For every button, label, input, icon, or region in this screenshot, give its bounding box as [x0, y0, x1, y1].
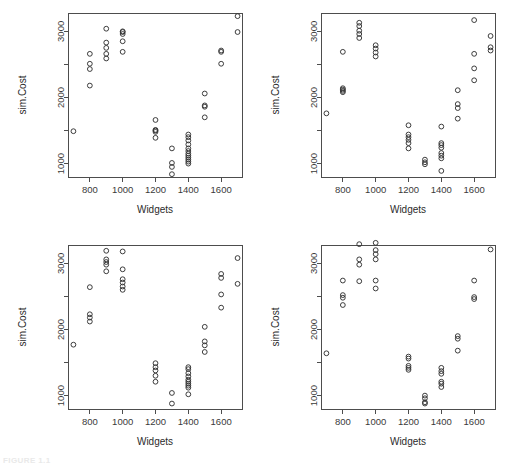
data-points-0: [71, 14, 240, 177]
x-axis-tick-label: 1200: [145, 184, 166, 195]
x-axis-tick-label: 1400: [431, 184, 452, 195]
scatter-panel-top-left: 100020003000 8001000120014001600 Widgets…: [0, 0, 253, 232]
data-point: [87, 285, 92, 290]
x-axis-tick-label: 800: [82, 416, 98, 427]
data-point: [340, 278, 345, 283]
x-axis-tick-label: 1600: [211, 184, 232, 195]
data-point: [472, 278, 477, 283]
x-axis-tick-label: 1400: [178, 184, 199, 195]
x-axis-tick-label: 1400: [178, 416, 199, 427]
data-point: [406, 123, 411, 128]
data-point: [104, 51, 109, 56]
y-axis-tick-label: 2000: [55, 87, 66, 108]
data-point: [357, 20, 362, 25]
y-axis-tick-label: 3000: [55, 21, 66, 42]
scatter-plot-svg-3: 100020003000 8001000120014001600 Widgets…: [253, 232, 506, 464]
data-points-2: [71, 248, 240, 406]
data-point: [340, 303, 345, 308]
x-axis-tick-label: 800: [335, 184, 351, 195]
scatter-panel-bottom-right: 100020003000 8001000120014001600 Widgets…: [253, 232, 506, 464]
data-point: [439, 365, 444, 370]
x-axis-tick-label: 1400: [431, 416, 452, 427]
x-axis-tick-label: 1600: [211, 416, 232, 427]
data-point: [472, 66, 477, 71]
y-axis-tick-label: 2000: [55, 319, 66, 340]
x-axis-tick-label: 1200: [145, 416, 166, 427]
x-axis-0: 8001000120014001600: [82, 178, 232, 195]
data-points-3: [324, 240, 493, 406]
data-point: [104, 45, 109, 50]
data-point: [235, 14, 240, 19]
y-axis-tick-label: 1000: [55, 385, 66, 406]
data-point: [455, 348, 460, 353]
data-point: [488, 45, 493, 50]
x-axis-title-2: Widgets: [137, 436, 173, 447]
data-point: [357, 262, 362, 267]
data-point: [87, 67, 92, 72]
data-point: [406, 146, 411, 151]
data-point: [235, 281, 240, 286]
data-point: [170, 391, 175, 396]
y-axis-title-1: sim.Cost: [270, 75, 281, 114]
x-axis-title-3: Widgets: [390, 436, 426, 447]
data-point: [120, 249, 125, 254]
data-point: [373, 286, 378, 291]
data-point: [153, 373, 158, 378]
data-point: [472, 51, 477, 56]
data-point: [186, 392, 191, 397]
data-point: [120, 267, 125, 272]
data-point: [324, 351, 329, 356]
plot-area-2: [69, 246, 243, 410]
data-point: [104, 269, 109, 274]
x-axis-tick-label: 800: [82, 184, 98, 195]
data-point: [104, 26, 109, 31]
x-axis-tick-label: 1000: [365, 184, 386, 195]
data-point: [170, 146, 175, 151]
data-points-1: [324, 18, 493, 174]
data-point: [153, 118, 158, 123]
data-point: [120, 49, 125, 54]
x-axis-tick-label: 1000: [365, 416, 386, 427]
data-point: [219, 305, 224, 310]
data-point: [373, 278, 378, 283]
x-axis-1: 8001000120014001600: [335, 178, 485, 195]
data-point: [455, 116, 460, 121]
plot-area-1: [322, 14, 496, 178]
data-point: [87, 61, 92, 66]
data-point: [170, 172, 175, 177]
y-axis-title-3: sim.Cost: [270, 307, 281, 346]
data-point: [439, 168, 444, 173]
data-point: [71, 342, 76, 347]
data-point: [373, 257, 378, 262]
data-point: [488, 34, 493, 39]
plot-area-3: [322, 240, 496, 409]
y-axis-tick-label: 2000: [308, 87, 319, 108]
data-point: [357, 279, 362, 284]
x-axis-title-0: Widgets: [137, 204, 173, 215]
data-point: [104, 40, 109, 45]
data-point: [235, 256, 240, 261]
data-point: [373, 240, 378, 245]
y-axis-tick-label: 1000: [308, 385, 319, 406]
x-axis-tick-label: 1600: [464, 416, 485, 427]
x-axis-tick-label: 1200: [398, 416, 419, 427]
x-axis-tick-label: 1600: [464, 184, 485, 195]
data-point: [87, 51, 92, 56]
scatter-plot-svg-2: 100020003000 8001000120014001600 Widgets…: [0, 232, 253, 464]
data-point: [153, 135, 158, 140]
y-axis-0: 100020003000: [55, 21, 69, 174]
data-point: [219, 61, 224, 66]
data-point: [104, 248, 109, 253]
data-point: [71, 129, 76, 134]
x-axis-tick-label: 1200: [398, 184, 419, 195]
y-axis-title-2: sim.Cost: [17, 307, 28, 346]
y-axis-tick-label: 1000: [308, 153, 319, 174]
y-axis-tick-label: 2000: [308, 319, 319, 340]
scatter-plot-svg-0: 100020003000 8001000120014001600 Widgets…: [0, 0, 253, 232]
data-point: [472, 18, 477, 23]
scatter-panel-top-right: 100020003000 8001000120014001600 Widgets…: [253, 0, 506, 232]
plot-area-0: [69, 14, 243, 178]
data-point: [324, 111, 329, 116]
data-point: [439, 124, 444, 129]
x-axis-tick-label: 1000: [112, 416, 133, 427]
